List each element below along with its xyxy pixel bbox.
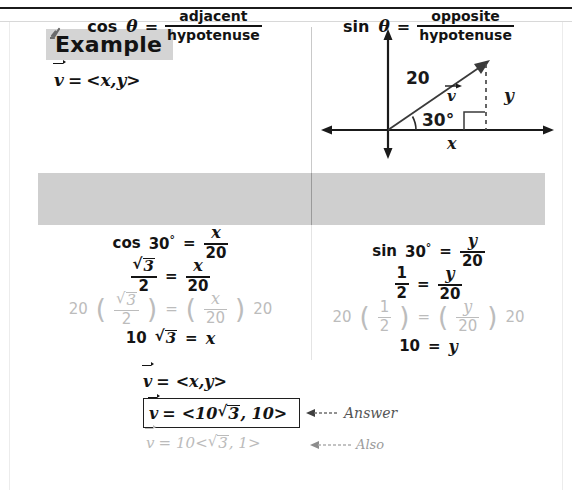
trailing-multiplier: 20	[505, 308, 524, 326]
fraction-denominator: hypotenuse	[165, 27, 262, 43]
sin-step-4-result: 10 = y	[312, 332, 545, 360]
equals-sign: =	[439, 242, 452, 260]
equals-sign: =	[165, 300, 178, 318]
answer-annotation-label: Answer	[344, 405, 397, 421]
sine-definition: sin θ = opposite hypotenuse	[312, 0, 545, 52]
cos-step-4-result: 10 √3 = x	[38, 324, 303, 352]
close-paren: )	[399, 307, 409, 328]
equals-sign: =	[152, 372, 175, 391]
angle-number: 30	[149, 235, 170, 253]
vector-definition: v=<x,y>	[54, 70, 141, 90]
sqrt3-over-2-fraction: √3 2	[114, 291, 139, 327]
fraction-numerator: 1	[378, 300, 392, 317]
conclusion-general-line: v=<x,y>	[143, 368, 443, 394]
close-paren: )	[147, 299, 157, 320]
sin-label: sin	[372, 242, 397, 260]
sqrt3-over-2-fraction: √3 2	[131, 257, 157, 294]
fraction-denominator: hypotenuse	[417, 27, 514, 43]
cos-label: cos	[113, 234, 141, 252]
y-over-20-fraction: y 20	[456, 299, 479, 334]
multiplier: 20	[69, 300, 88, 318]
radicand: 3	[126, 292, 138, 309]
vector-components: <x,y>	[176, 372, 227, 391]
radical-sign: √	[208, 434, 218, 449]
vector-symbol: v	[146, 434, 154, 452]
left-arrow-icon	[306, 408, 340, 418]
square-root-expression: √3	[155, 329, 177, 347]
close-paren: )	[235, 299, 245, 320]
fraction-numerator: 1	[395, 266, 409, 283]
equals-sign: =	[64, 70, 86, 90]
fraction-numerator: y	[443, 266, 456, 284]
also-line: v=10<√3, 1>	[146, 434, 260, 452]
degree-symbol: °	[170, 233, 176, 246]
radical-sign: √	[133, 257, 143, 272]
y-component-label: y	[503, 85, 515, 105]
sin-step-3-faded: 20 ( 1 2 ) = ( y 20 ) 20	[312, 302, 545, 332]
sin-function-label: sin	[343, 17, 369, 36]
fraction-numerator: x	[191, 258, 205, 276]
radicand: 3	[165, 330, 177, 347]
answer-annotation: Answer	[306, 405, 397, 421]
answer-open: <10	[182, 404, 218, 423]
cos-step-3-faded: 20 ( √3 2 ) = ( x 20 ) 20	[38, 294, 303, 324]
x-component-label: x	[446, 134, 457, 153]
result-variable: x	[206, 329, 216, 348]
equals-sign: =	[417, 308, 430, 326]
magnitude-label: 20	[406, 68, 430, 88]
equals-sign: =	[417, 275, 430, 293]
fraction-denominator: 20	[204, 310, 227, 327]
vector-symbol: v	[149, 404, 158, 423]
equals-sign: =	[145, 17, 158, 36]
cos-step-2: √3 2 = x 20	[38, 258, 303, 294]
also-annotation: Also	[310, 437, 384, 452]
equals-sign: =	[183, 234, 196, 252]
adjacent-over-hypotenuse-fraction: adjacent hypotenuse	[165, 9, 262, 42]
theta-symbol: θ	[124, 16, 137, 36]
radical-sign: √	[217, 404, 227, 419]
left-arrow-icon	[310, 440, 352, 450]
square-root-expression: √3	[217, 404, 240, 423]
trailing-multiplier: 20	[253, 300, 272, 318]
x-over-20-fraction: x 20	[186, 258, 211, 294]
fraction-numerator: y	[461, 299, 474, 317]
vector-symbol: v	[54, 70, 64, 90]
equals-sign: =	[428, 337, 441, 355]
angle-label: 30°	[422, 110, 454, 130]
also-close: , 1>	[229, 434, 261, 452]
sin-step-2: 1 2 = y 20	[312, 266, 545, 302]
general-vector-line: v=<x,y>	[143, 368, 443, 394]
fraction-denominator: 2	[120, 311, 134, 328]
square-root-expression: √3	[133, 257, 155, 275]
equals-sign: =	[154, 434, 176, 452]
vector-label-v: v	[447, 87, 456, 105]
band-column-divider	[311, 173, 312, 225]
one-half-fraction: 1 2	[378, 300, 392, 334]
fraction-denominator: 2	[378, 318, 392, 335]
fraction-numerator: √3	[114, 291, 139, 310]
equals-sign: =	[158, 404, 181, 423]
close-paren: )	[487, 307, 497, 328]
degree-symbol: °	[426, 241, 432, 254]
equals-sign: =	[185, 329, 198, 347]
answer-close: , 10>	[240, 404, 287, 423]
y-over-20-fraction: y 20	[460, 233, 485, 269]
cos-step-1: cos 30° = x 20	[38, 228, 303, 258]
radical-sign: √	[116, 291, 126, 306]
cosine-definition: cos θ = adjacent hypotenuse	[38, 0, 311, 52]
cosine-work-column: cos 30° = x 20 √3 2 = x 20 20 (	[38, 228, 303, 352]
open-paren: (	[360, 307, 370, 328]
fraction-numerator: y	[466, 233, 479, 251]
fraction-denominator: 20	[460, 253, 485, 270]
fraction-numerator: x	[209, 225, 223, 243]
vector-components: <x,y>	[86, 70, 140, 90]
fraction-numerator: adjacent	[177, 9, 249, 25]
result-value: 10	[399, 337, 420, 355]
sine-work-column: sin 30° = y 20 1 2 = y 20 20 ( 1 2 ) =	[312, 236, 545, 360]
square-root-expression: √3	[208, 434, 229, 452]
open-paren: (	[438, 307, 448, 328]
open-paren: (	[96, 299, 106, 320]
answer-box: v=<10√3, 10>	[143, 398, 300, 428]
equals-sign: =	[397, 17, 410, 36]
sin-step-1: sin 30° = y 20	[312, 236, 545, 266]
